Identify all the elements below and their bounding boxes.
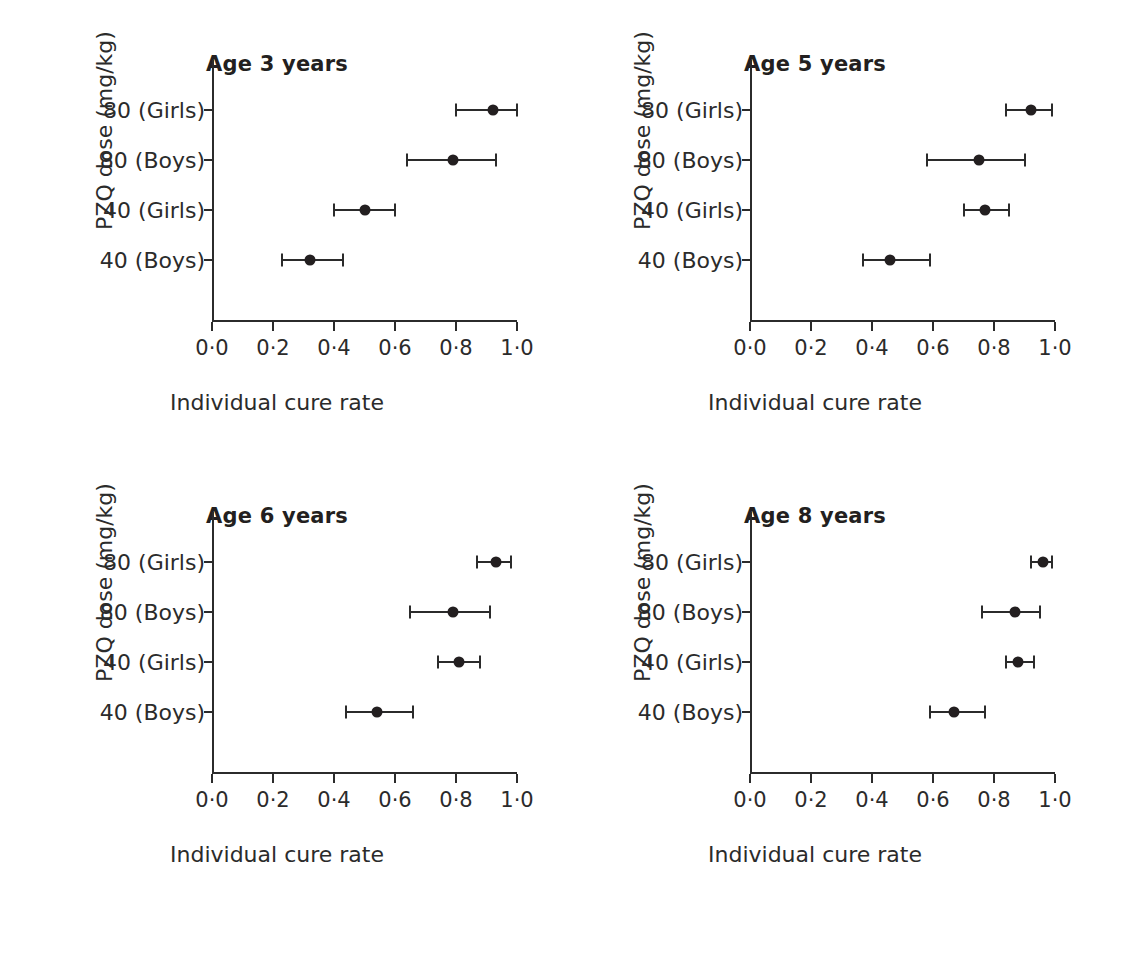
x-axis-title: Individual cure rate: [42, 842, 512, 867]
x-axis-tick-label: 1·0: [1020, 336, 1090, 360]
x-axis-tick-label: 0·6: [360, 336, 430, 360]
data-point-marker: [1037, 557, 1048, 568]
y-axis-tick: [204, 259, 212, 261]
y-axis-tick: [204, 109, 212, 111]
x-axis-tick: [333, 774, 335, 783]
x-axis-tick: [1054, 774, 1056, 783]
y-axis-tick-label: 80 (Boys): [0, 148, 205, 173]
x-axis-tick: [394, 774, 396, 783]
data-point-marker: [973, 155, 984, 166]
y-axis-tick-label: 40 (Boys): [0, 700, 205, 725]
x-axis-tick: [871, 322, 873, 331]
y-axis-tick: [204, 209, 212, 211]
x-axis-tick-label: 0·0: [177, 336, 247, 360]
error-bar-cap-low: [345, 706, 347, 719]
error-bar-cap-high: [929, 254, 931, 267]
error-bar-cap-high: [984, 706, 986, 719]
y-axis-tick: [204, 711, 212, 713]
error-bar-cap-high: [1051, 556, 1053, 569]
x-axis-tick-label: 0·6: [898, 788, 968, 812]
y-axis-tick: [742, 661, 750, 663]
error-bar-cap-low: [1005, 656, 1007, 669]
y-axis-tick-label: 80 (Girls): [493, 550, 743, 575]
error-bar-cap-low: [455, 104, 457, 117]
panel-age-3: Age 3 yearsPZQ dose (mg/kg)Individual cu…: [42, 0, 602, 477]
y-axis-tick-label: 40 (Girls): [0, 198, 205, 223]
error-bar-cap-high: [479, 656, 481, 669]
error-bar-cap-low: [963, 204, 965, 217]
plot-area: 0·00·20·40·60·81·080 (Girls)80 (Boys)40 …: [750, 60, 1055, 320]
y-axis-tick-label: 40 (Boys): [0, 248, 205, 273]
x-axis-tick-label: 0·2: [238, 788, 308, 812]
x-axis-tick-label: 0·0: [715, 788, 785, 812]
error-bar-cap-high: [1008, 204, 1010, 217]
data-point-marker: [371, 707, 382, 718]
x-axis-tick-label: 0·2: [238, 336, 308, 360]
x-axis-tick-label: 0·2: [776, 336, 846, 360]
y-axis-tick-label: 80 (Girls): [493, 98, 743, 123]
data-point-marker: [454, 657, 465, 668]
y-axis-tick-label: 80 (Girls): [0, 550, 205, 575]
x-axis-tick-label: 0·8: [421, 336, 491, 360]
error-bar-cap-low: [409, 606, 411, 619]
error-bar-cap-low: [281, 254, 283, 267]
x-axis-tick: [993, 774, 995, 783]
x-axis-tick-label: 0·0: [715, 336, 785, 360]
data-point-marker: [447, 155, 458, 166]
x-axis-tick-label: 1·0: [482, 336, 552, 360]
y-axis-tick: [742, 711, 750, 713]
data-point-marker: [1010, 607, 1021, 618]
x-axis-tick: [455, 322, 457, 331]
x-axis-tick: [211, 322, 213, 331]
y-axis-tick: [742, 209, 750, 211]
data-point-marker: [949, 707, 960, 718]
y-axis-tick-label: 80 (Boys): [493, 148, 743, 173]
y-axis-tick: [742, 259, 750, 261]
y-axis-spine: [212, 60, 214, 320]
data-point-marker: [1025, 105, 1036, 116]
data-point-marker: [885, 255, 896, 266]
y-axis-tick-label: 80 (Boys): [0, 600, 205, 625]
x-axis-tick-label: 0·2: [776, 788, 846, 812]
error-bar-cap-low: [981, 606, 983, 619]
error-bar-cap-high: [1039, 606, 1041, 619]
x-axis-title: Individual cure rate: [580, 390, 1050, 415]
error-bar-cap-high: [1051, 104, 1053, 117]
x-axis-tick: [993, 322, 995, 331]
x-axis-tick-label: 0·6: [898, 336, 968, 360]
error-bar-cap-high: [342, 254, 344, 267]
data-point-marker: [304, 255, 315, 266]
plot-area: 0·00·20·40·60·81·080 (Girls)80 (Boys)40 …: [750, 512, 1055, 772]
x-axis-tick-label: 0·0: [177, 788, 247, 812]
x-axis-tick: [211, 774, 213, 783]
x-axis-spine: [750, 320, 1055, 322]
x-axis-tick: [455, 774, 457, 783]
error-bar-cap-high: [412, 706, 414, 719]
panel-age-8: Age 8 yearsPZQ dose (mg/kg)Individual cu…: [580, 452, 1140, 929]
x-axis-tick-label: 0·8: [959, 336, 1029, 360]
x-axis-tick: [516, 322, 518, 331]
x-axis-tick-label: 0·4: [837, 336, 907, 360]
y-axis-spine: [750, 60, 752, 320]
y-axis-tick: [204, 611, 212, 613]
y-axis-tick-label: 40 (Girls): [493, 650, 743, 675]
data-point-marker: [359, 205, 370, 216]
x-axis-title: Individual cure rate: [42, 390, 512, 415]
x-axis-tick: [871, 774, 873, 783]
x-axis-tick: [810, 774, 812, 783]
x-axis-tick: [272, 774, 274, 783]
error-bar-cap-low: [926, 154, 928, 167]
y-axis-tick: [742, 109, 750, 111]
x-axis-tick: [272, 322, 274, 331]
data-point-marker: [979, 205, 990, 216]
x-axis-spine: [750, 772, 1055, 774]
x-axis-spine: [212, 772, 517, 774]
y-axis-tick: [742, 561, 750, 563]
y-axis-tick: [204, 159, 212, 161]
error-bar-line: [863, 259, 930, 261]
error-bar-cap-low: [333, 204, 335, 217]
error-bar-cap-low: [1005, 104, 1007, 117]
error-bar-cap-low: [862, 254, 864, 267]
x-axis-tick-label: 1·0: [482, 788, 552, 812]
x-axis-tick: [1054, 322, 1056, 331]
